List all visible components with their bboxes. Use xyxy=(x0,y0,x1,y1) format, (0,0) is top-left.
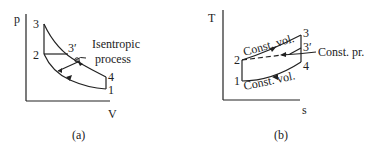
pv-point-3prime: 3′ xyxy=(68,42,77,54)
pv-axis-y-label: p xyxy=(14,13,20,25)
ts-point-3prime: 3′ xyxy=(303,41,312,53)
pv-point-1: 1 xyxy=(108,84,114,96)
ts-axis-y-label: T xyxy=(208,12,215,24)
ts-label-right: Const. pr. xyxy=(318,46,364,58)
ts-point-3: 3 xyxy=(303,27,309,39)
ts-axis-x-label: s xyxy=(302,104,307,116)
pv-point-4: 4 xyxy=(108,71,114,83)
pv-axis-x-label: V xyxy=(108,108,117,120)
pv-caption: (a) xyxy=(72,129,85,141)
pv-annotation-line2: process xyxy=(95,53,131,65)
diagram-canvas xyxy=(0,0,388,150)
pv-point-2: 2 xyxy=(33,49,39,61)
pv-annotation-line1: Isentropic xyxy=(92,38,140,50)
pv-arrows xyxy=(58,60,83,81)
ts-point-1: 1 xyxy=(234,75,240,87)
pv-point-3: 3 xyxy=(33,18,39,30)
ts-point-4: 4 xyxy=(303,60,309,72)
ts-point-2: 2 xyxy=(234,54,240,66)
ts-caption: (b) xyxy=(274,129,288,141)
